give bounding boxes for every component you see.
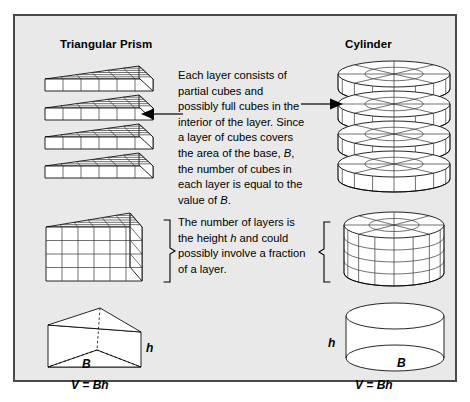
volume-diagram: Triangular Prism Cylinder Each layer con… xyxy=(0,0,470,402)
explanation-layers-part3: . xyxy=(228,194,231,206)
prism-base-label: B xyxy=(82,357,91,371)
curly-brace-icon xyxy=(318,221,332,283)
prism-height-label: h xyxy=(146,341,153,355)
cylinder-height-label: h xyxy=(328,336,335,350)
column-title-triangular-prism: Triangular Prism xyxy=(60,38,152,50)
explanation-layers: Each layer consists of partial cubes and… xyxy=(178,68,306,208)
prism-volume-formula: V = Bh xyxy=(71,378,109,392)
column-title-cylinder: Cylinder xyxy=(345,38,392,50)
explanation-layers-var2: B xyxy=(220,194,227,206)
cylinder-assembled-figure xyxy=(337,210,451,290)
explanation-layers-part1: Each layer consists of partial cubes and… xyxy=(178,69,304,159)
arrow-right-icon xyxy=(301,96,343,112)
cylinder-base-label: B xyxy=(397,356,406,370)
diagram-panel: Triangular Prism Cylinder Each layer con… xyxy=(13,14,457,382)
prism-solid-figure xyxy=(45,306,155,374)
cylinder-layer-stack xyxy=(331,60,457,186)
prism-layer-stack xyxy=(41,64,171,182)
arrow-left-icon xyxy=(141,106,183,122)
prism-assembled-figure xyxy=(42,211,160,289)
explanation-height: The number of layers is the height h and… xyxy=(178,215,306,277)
cylinder-solid-figure xyxy=(341,304,449,376)
curly-brace-icon xyxy=(162,219,176,283)
cylinder-volume-formula: V = Bh xyxy=(355,378,393,392)
